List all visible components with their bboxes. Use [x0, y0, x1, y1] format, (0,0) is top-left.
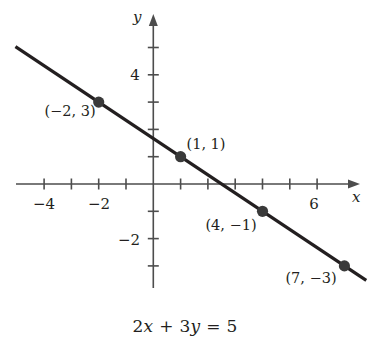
- point-label-c: (4, −1): [205, 218, 256, 233]
- point-label-d: (7, −3): [285, 271, 336, 286]
- equation-equals: =: [206, 316, 221, 336]
- x-axis: [16, 179, 360, 190]
- equation-coef-x: 2: [132, 316, 143, 336]
- graph-figure: y x −4 −2 6 4 −2 (−2, 3) (1, 1) (4, −1) …: [0, 0, 369, 348]
- y-axis: [148, 14, 159, 288]
- equation-plus: +: [159, 316, 174, 336]
- equation-var-y: y: [191, 316, 201, 336]
- x-axis-label: x: [352, 190, 360, 205]
- data-point: [175, 151, 186, 162]
- equation-constant: 5: [226, 316, 237, 336]
- x-tick-label-neg4: −4: [33, 197, 55, 212]
- data-point: [257, 206, 268, 217]
- data-point: [339, 260, 350, 271]
- point-label-a: (−2, 3): [44, 104, 95, 119]
- coordinate-plane-svg: [0, 0, 369, 348]
- x-tick-label-neg2: −2: [88, 197, 110, 212]
- point-label-b: (1, 1): [187, 137, 226, 152]
- y-tick-label-neg2: −2: [118, 233, 140, 248]
- y-tick-label-4: 4: [130, 68, 140, 83]
- plotted-line: [15, 47, 366, 281]
- equation-var-x: x: [144, 316, 154, 336]
- equation-caption: 2x + 3y = 5: [132, 318, 237, 335]
- equation-coef-y: 3: [179, 316, 190, 336]
- y-axis-label: y: [133, 10, 141, 25]
- x-tick-label-6: 6: [309, 197, 319, 212]
